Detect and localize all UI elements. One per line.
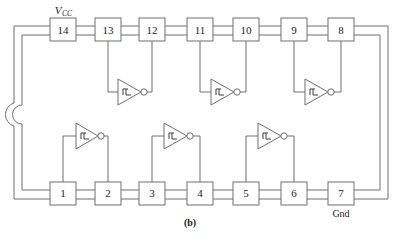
wire-gate5-output-to-pin10 [240, 40, 246, 92]
wire-gate4-output-to-pin12 [147, 40, 152, 92]
pin-9-number: 9 [291, 24, 297, 36]
gate-3-inversion-bubble [281, 133, 287, 139]
left-rail-outer-upper [14, 26, 50, 103]
rail-9-8 [307, 26, 328, 35]
pin-4-number: 4 [197, 187, 203, 199]
wire-gate1-output-to-pin2 [104, 136, 108, 185]
gate-5-triangle [211, 79, 234, 105]
gate-3-triangle [258, 123, 281, 149]
wire-pin11-to-gate5-input [200, 40, 211, 92]
pin-box-12[interactable]: 12 [139, 18, 165, 41]
left-rail-outer-lower [14, 126, 50, 199]
pin-12-number: 12 [147, 24, 158, 36]
wire-pin5-to-gate3-input [246, 136, 258, 185]
pin-11-number: 11 [195, 24, 206, 36]
wire-gate3-output-to-pin6 [287, 136, 294, 185]
pin-box-9[interactable]: 9 [281, 18, 307, 41]
gate-6-schmitt-inverter [305, 79, 334, 105]
gate-6-inversion-bubble [328, 89, 334, 95]
rail-3-4 [165, 190, 187, 199]
pin-box-1[interactable]: 1 [50, 182, 76, 205]
gate-6-triangle [305, 79, 328, 105]
pin-box-7[interactable]: 7 [328, 182, 354, 205]
pin-box-2[interactable]: 2 [95, 182, 121, 205]
vcc-label: V CC [55, 4, 73, 18]
left-rail-inner-lower [22, 124, 50, 190]
pin-7-number: 7 [338, 187, 344, 199]
pin-6-number: 6 [291, 187, 297, 199]
gate-1-triangle [76, 123, 98, 149]
wire-pin13-to-gate4-input [108, 40, 118, 92]
package-notch-inner [13, 105, 23, 124]
rail-12-11 [165, 26, 187, 35]
right-rail-outer [354, 26, 388, 199]
wire-gate6-output-to-pin8 [334, 40, 341, 92]
gate-2-schmitt-inverter [164, 123, 193, 149]
pin-box-13[interactable]: 13 [95, 18, 121, 41]
right-rail-inner [354, 35, 380, 190]
pin-8-number: 8 [338, 24, 344, 36]
gate-1-inversion-bubble [98, 133, 104, 139]
pin-box-11[interactable]: 11 [187, 18, 213, 41]
rail-4-5 [213, 190, 233, 199]
rail-2-3 [121, 190, 139, 199]
gate-1-schmitt-inverter [76, 123, 104, 149]
pin-13-number: 13 [103, 24, 115, 36]
gate-3-schmitt-inverter [258, 123, 287, 149]
wire-pin3-to-gate2-input [152, 136, 164, 185]
circuit-diagram: 14 13 12 11 10 9 8 1 [0, 0, 402, 242]
gate-2-inversion-bubble [187, 133, 193, 139]
gate-4-inversion-bubble [141, 89, 147, 95]
pin-box-8[interactable]: 8 [328, 18, 354, 41]
pin-box-5[interactable]: 5 [233, 182, 259, 205]
gate-4-triangle [118, 79, 141, 105]
gate-2-triangle [164, 123, 187, 149]
vcc-subscript-text: CC [62, 9, 73, 18]
pin-10-number: 10 [241, 24, 253, 36]
pin-box-6[interactable]: 6 [281, 182, 307, 205]
pin-1-number: 1 [60, 187, 66, 199]
wire-gate2-output-to-pin4 [193, 136, 200, 185]
wire-pin1-to-gate1-input [63, 136, 76, 185]
pin-box-10[interactable]: 10 [233, 18, 259, 41]
gnd-label: Gnd [332, 208, 349, 219]
pin-14-number: 14 [58, 24, 70, 36]
rail-14-13 [76, 26, 95, 35]
wire-pin9-to-gate6-input [294, 40, 305, 92]
ic-pinout-figure: 14 13 12 11 10 9 8 1 [0, 0, 402, 242]
rail-10-9 [259, 26, 281, 35]
rail-13-12 [121, 26, 139, 35]
gate-4-schmitt-inverter [118, 79, 147, 105]
pin-box-4[interactable]: 4 [187, 182, 213, 205]
rail-11-10 [213, 26, 233, 35]
gate-5-inversion-bubble [234, 89, 240, 95]
gate-5-schmitt-inverter [211, 79, 240, 105]
pin-5-number: 5 [243, 187, 249, 199]
pin-3-number: 3 [149, 187, 155, 199]
figure-caption: (b) [184, 217, 196, 229]
pin-2-number: 2 [105, 187, 111, 199]
pin-box-14[interactable]: 14 [50, 18, 76, 41]
rail-1-2 [76, 190, 95, 199]
rail-6-7 [307, 190, 328, 199]
pin-box-3[interactable]: 3 [139, 182, 165, 205]
left-rail-inner-upper [22, 35, 50, 105]
rail-5-6 [259, 190, 281, 199]
